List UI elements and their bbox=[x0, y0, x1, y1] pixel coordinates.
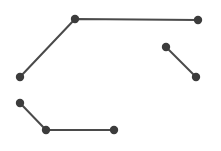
polyline-top-node-2 bbox=[194, 16, 202, 24]
nodes-layer bbox=[16, 15, 202, 134]
polyline-right bbox=[166, 47, 196, 77]
polyline-top-node-1 bbox=[71, 15, 79, 23]
polyline-top bbox=[20, 19, 198, 77]
polyline-right-node-1 bbox=[192, 73, 200, 81]
diagram-canvas bbox=[0, 0, 221, 151]
polyline-bottom-node-2 bbox=[110, 126, 118, 134]
polyline-bottom bbox=[20, 103, 114, 130]
polyline-bottom-node-0 bbox=[16, 99, 24, 107]
polyline-top-node-0 bbox=[16, 73, 24, 81]
edges-layer bbox=[20, 19, 198, 130]
polyline-right-node-0 bbox=[162, 43, 170, 51]
polyline-bottom-node-1 bbox=[42, 126, 50, 134]
